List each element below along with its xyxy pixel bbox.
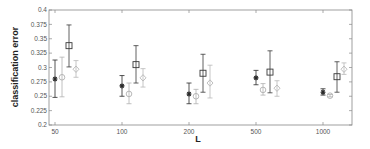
y-tick-label: 0.325 bbox=[31, 49, 48, 56]
plot-area bbox=[49, 10, 352, 125]
x-tick-label: 1000 bbox=[316, 128, 331, 135]
star-marker-icon bbox=[120, 83, 125, 88]
star-marker-icon bbox=[53, 77, 58, 82]
star-marker-icon bbox=[187, 91, 192, 96]
y-tick-label: 0.3 bbox=[38, 64, 47, 71]
y-tick-label: 0.2 bbox=[38, 121, 47, 128]
x-tick-label: 50 bbox=[51, 128, 59, 135]
x-tick-label: 500 bbox=[251, 128, 262, 135]
star-marker-icon bbox=[254, 75, 259, 80]
y-tick-label: 0.25 bbox=[34, 92, 47, 99]
y-tick-label: 0.225 bbox=[31, 107, 48, 114]
star-marker-icon bbox=[321, 90, 326, 95]
error-bar-chart: 0.20.2250.250.2750.30.3250.350.3750.4 50… bbox=[0, 0, 370, 149]
y-tick-label: 0.375 bbox=[31, 21, 48, 28]
x-axis-label: L bbox=[195, 134, 201, 144]
x-tick-label: 100 bbox=[117, 128, 128, 135]
y-tick-label: 0.35 bbox=[34, 35, 47, 42]
y-tick-label: 0.275 bbox=[31, 78, 48, 85]
x-tick-label: 200 bbox=[184, 128, 195, 135]
y-tick-label: 0.4 bbox=[38, 6, 47, 13]
y-axis-label: classification error bbox=[10, 26, 20, 107]
